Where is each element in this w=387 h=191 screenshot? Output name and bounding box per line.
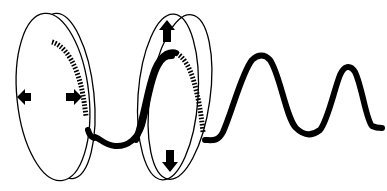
first-filter — [8, 10, 102, 185]
wave-segment-1 — [90, 56, 172, 146]
arrow-up-icon — [159, 20, 175, 42]
arrow-down-icon — [162, 150, 178, 172]
wave-segment-2 — [205, 56, 382, 141]
polarization-diagram — [0, 0, 387, 191]
second-filter — [132, 11, 221, 184]
